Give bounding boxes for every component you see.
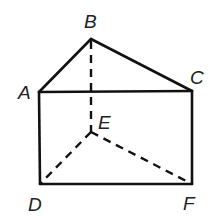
edge-bc [91, 39, 192, 91]
label-f: F [183, 193, 196, 214]
label-e: E [98, 112, 111, 133]
label-c: C [190, 67, 204, 88]
edge-ef-hidden [91, 132, 192, 184]
edge-ad [39, 92, 40, 184]
edge-de-hidden [40, 132, 91, 184]
edge-ac [39, 91, 192, 92]
edge-ab [39, 39, 91, 92]
label-b: B [84, 11, 97, 32]
label-d: D [28, 194, 42, 215]
prism-diagram: B A C E D F [0, 0, 214, 222]
label-a: A [17, 82, 31, 103]
